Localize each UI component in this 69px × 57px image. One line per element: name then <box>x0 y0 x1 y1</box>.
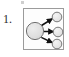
node-hub[interactable] <box>26 22 43 39</box>
node-group <box>26 12 62 49</box>
node-link-diagram <box>24 9 65 51</box>
edge-hub-to-leaf-bottom <box>41 37 52 42</box>
node-leaf-bottom[interactable] <box>52 39 62 49</box>
node-leaf-middle[interactable] <box>53 27 63 37</box>
node-leaf-top[interactable] <box>52 12 62 22</box>
figure-number-label: 1. <box>3 12 17 26</box>
figure-thumbnail: 1. <box>0 0 69 57</box>
figure-frame[interactable] <box>23 8 64 50</box>
edge-hub-to-leaf-top <box>42 19 53 26</box>
top-speck-mark <box>21 1 24 4</box>
